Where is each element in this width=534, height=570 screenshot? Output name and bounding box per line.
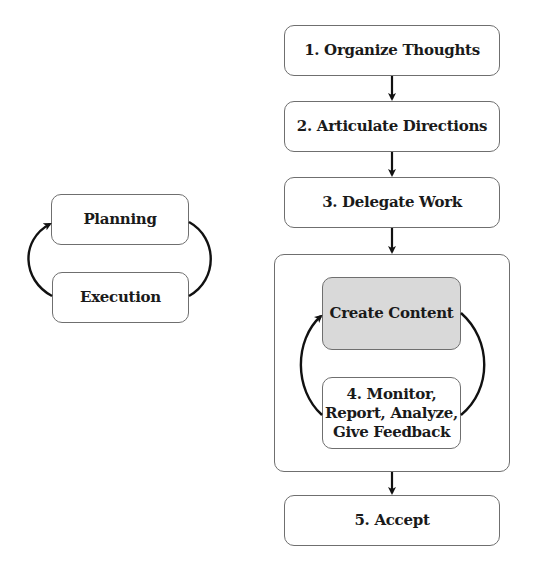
cycle-arc-inner-right: [461, 313, 484, 415]
cycle-arrow-left-icon: [28, 224, 52, 296]
cycle-arc-right: [189, 222, 211, 296]
connectors: [0, 0, 534, 570]
cycle-arrow-inner-left-icon: [301, 316, 322, 415]
